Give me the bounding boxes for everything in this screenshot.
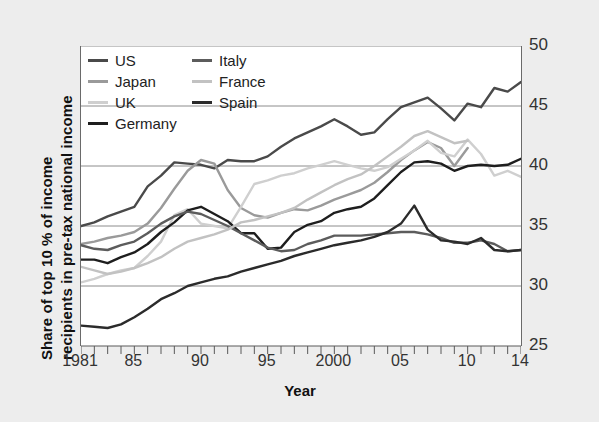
- chart-figure: Share of top 10 % of income recipients i…: [0, 0, 599, 422]
- legend-item-france[interactable]: France: [192, 71, 266, 92]
- legend-line-swatch-icon: [192, 59, 212, 62]
- legend-item-label: Italy: [219, 53, 247, 68]
- legend-item-label: Spain: [219, 95, 257, 110]
- x-axis-tick-label: 14: [480, 352, 560, 370]
- y-axis-tick-label: 35: [529, 215, 575, 235]
- legend-column-left: USJapanUKGermany: [88, 50, 177, 134]
- legend-item-spain[interactable]: Spain: [192, 92, 266, 113]
- legend-item-label: UK: [115, 95, 136, 110]
- legend-item-label: US: [115, 53, 136, 68]
- series-line-japan: [81, 142, 468, 244]
- legend-column-right: ItalyFranceSpain: [192, 50, 266, 113]
- legend-item-label: Japan: [115, 74, 156, 89]
- legend-item-germany[interactable]: Germany: [88, 113, 177, 134]
- x-axis-label: Year: [80, 382, 520, 399]
- y-axis-label: Share of top 10 % of income recipients i…: [0, 0, 78, 380]
- legend-item-label: Germany: [115, 116, 177, 131]
- legend-line-swatch-icon: [88, 59, 108, 62]
- y-axis-label-line-1: Share of top 10 % of income: [38, 156, 55, 360]
- y-axis-tick-label: 50: [529, 35, 575, 55]
- y-axis-tick-label: 40: [529, 155, 575, 175]
- legend-item-uk[interactable]: UK: [88, 92, 177, 113]
- legend-item-label: France: [219, 74, 266, 89]
- legend-line-swatch-icon: [192, 101, 212, 104]
- legend-line-swatch-icon: [88, 80, 108, 83]
- legend-item-japan[interactable]: Japan: [88, 71, 177, 92]
- legend-item-us[interactable]: US: [88, 50, 177, 71]
- legend-line-swatch-icon: [192, 80, 212, 83]
- legend-item-italy[interactable]: Italy: [192, 50, 266, 71]
- legend-line-swatch-icon: [88, 101, 108, 104]
- legend-line-swatch-icon: [88, 122, 108, 125]
- y-axis-label-line-2: recipients in pre-tax national income: [58, 95, 75, 360]
- y-axis-tick-label: 30: [529, 275, 575, 295]
- y-axis-tick-label: 45: [529, 95, 575, 115]
